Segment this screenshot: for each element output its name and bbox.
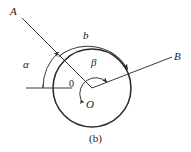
label-angle-beta: β xyxy=(91,57,96,68)
figure-container: A B b α β O 0 (b) xyxy=(0,0,191,152)
alpha-arc xyxy=(43,52,59,88)
beta-arc xyxy=(80,78,107,100)
diagram-svg xyxy=(0,0,191,152)
ray-OB xyxy=(92,57,172,88)
label-origin-zero: 0 xyxy=(69,79,74,89)
label-ray-b: B xyxy=(174,51,181,62)
figure-caption: (b) xyxy=(0,132,191,144)
label-angle-alpha: α xyxy=(23,59,29,70)
label-outer-arc: b xyxy=(83,30,89,41)
label-ray-a: A xyxy=(10,6,17,17)
label-center-o: O xyxy=(86,99,94,110)
ray-OA xyxy=(22,18,92,88)
